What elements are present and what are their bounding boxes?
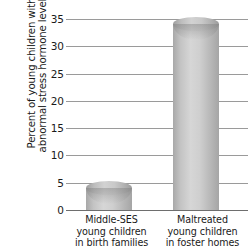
plot-area — [66, 19, 248, 210]
y-tick-0: 0 — [42, 204, 64, 216]
category-label-line-2: young children — [66, 226, 157, 238]
bar-chart: Percent of young children with abnormal … — [0, 0, 250, 252]
gridline-0-baseline — [66, 210, 248, 211]
y-axis-title-line-1: Percent of young children with — [26, 0, 37, 148]
category-label-line-1: Maltreated — [157, 214, 248, 226]
gridline-35 — [66, 19, 248, 20]
category-label-line-1: Middle-SES — [66, 214, 157, 226]
x-axis-category-labels: Middle-SES young children in birth famil… — [66, 214, 248, 252]
y-tick-30: 30 — [42, 40, 64, 52]
y-axis-tick-labels: 35 30 25 20 15 10 5 0 — [42, 19, 64, 210]
y-tick-20: 20 — [42, 95, 64, 107]
y-tick-15: 15 — [42, 122, 64, 134]
bar-middle-ses — [86, 188, 132, 210]
gridline-15 — [66, 128, 248, 129]
bar-top-ellipse-icon — [86, 181, 132, 195]
y-tick-25: 25 — [42, 68, 64, 80]
y-tick-10: 10 — [42, 149, 64, 161]
category-label-line-3: in birth families — [66, 237, 157, 249]
gridline-20 — [66, 101, 248, 102]
bar-top-ellipse-icon — [173, 17, 219, 31]
gridline-25 — [66, 74, 248, 75]
y-tick-5: 5 — [42, 177, 64, 189]
bar-maltreated — [173, 24, 219, 210]
gridline-30 — [66, 46, 248, 47]
category-label-maltreated: Maltreated young children in foster home… — [157, 214, 248, 252]
gridline-10 — [66, 155, 248, 156]
category-label-line-2: young children — [157, 226, 248, 238]
y-tick-35: 35 — [42, 13, 64, 25]
category-label-middle-ses: Middle-SES young children in birth famil… — [66, 214, 157, 252]
category-label-line-3: in foster homes — [157, 237, 248, 249]
